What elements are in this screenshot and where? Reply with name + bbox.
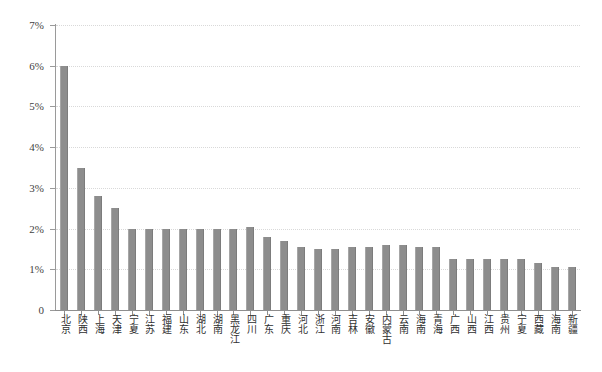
bar[interactable] xyxy=(179,229,187,310)
y-axis-tick-mark xyxy=(50,66,55,67)
x-axis-category-label: 重庆 xyxy=(279,314,289,334)
y-axis-tick-label: 2% xyxy=(0,223,44,235)
x-axis-category-label: 海南 xyxy=(414,314,424,334)
bar[interactable] xyxy=(399,245,407,310)
bar[interactable] xyxy=(348,247,356,310)
y-axis-tick-mark xyxy=(50,269,55,270)
y-axis-tick-label: 3% xyxy=(0,182,44,194)
bar[interactable] xyxy=(432,247,440,310)
bar[interactable] xyxy=(415,247,423,310)
gridline xyxy=(56,147,580,148)
bar[interactable] xyxy=(466,259,474,310)
x-axis-category-label: 黑龙江 xyxy=(228,314,238,344)
x-axis-category-label: 湖北 xyxy=(195,314,205,334)
bar[interactable] xyxy=(128,229,136,310)
bar[interactable] xyxy=(517,259,525,310)
x-axis-category-label: 内蒙古 xyxy=(381,314,391,344)
x-axis-category-label: 北京 xyxy=(59,314,69,334)
y-axis-tick-mark xyxy=(50,229,55,230)
bar[interactable] xyxy=(449,259,457,310)
x-axis-category-label: 海南 xyxy=(550,314,560,334)
bar[interactable] xyxy=(500,259,508,310)
x-axis-category-label: 江苏 xyxy=(144,314,154,334)
x-axis-category-label: 广东 xyxy=(262,314,272,334)
x-axis-category-label: 新疆 xyxy=(567,314,577,334)
x-axis-category-label: 山西 xyxy=(465,314,475,334)
x-axis-category-label: 西藏 xyxy=(533,314,543,334)
plot-area xyxy=(56,25,580,310)
x-axis-category-label: 湖南 xyxy=(212,314,222,334)
y-axis-tick-label: 0 xyxy=(0,304,44,316)
bar[interactable] xyxy=(551,267,559,310)
y-axis-tick-label: 1% xyxy=(0,263,44,275)
bar[interactable] xyxy=(331,249,339,310)
x-axis-category-label: 河南 xyxy=(330,314,340,334)
y-axis-tick-label: 4% xyxy=(0,141,44,153)
gridline xyxy=(56,188,580,189)
x-axis-category-label: 河北 xyxy=(296,314,306,334)
y-axis-tick-mark xyxy=(50,188,55,189)
y-axis-tick-mark xyxy=(50,106,55,107)
bar[interactable] xyxy=(229,229,237,310)
gridline xyxy=(56,25,580,26)
x-axis-category-label: 江西 xyxy=(482,314,492,334)
bar[interactable] xyxy=(534,263,542,310)
bar[interactable] xyxy=(145,229,153,310)
bar[interactable] xyxy=(246,227,254,310)
x-axis-category-label: 广西 xyxy=(448,314,458,334)
bar[interactable] xyxy=(213,229,221,310)
bar[interactable] xyxy=(94,196,102,310)
x-axis-category-label: 山东 xyxy=(178,314,188,334)
gridline xyxy=(56,66,580,67)
bar[interactable] xyxy=(483,259,491,310)
x-axis-category-label: 浙江 xyxy=(313,314,323,334)
x-axis-category-label: 宁夏 xyxy=(127,314,137,334)
x-axis-category-label: 上海 xyxy=(93,314,103,334)
bar[interactable] xyxy=(111,208,119,310)
bar-chart: 01%2%3%4%5%6%7% 北京陕西上海天津宁夏江苏福建山东湖北湖南黑龙江四… xyxy=(0,0,602,372)
x-axis-category-label: 吉林 xyxy=(347,314,357,334)
bar[interactable] xyxy=(162,229,170,310)
x-axis-category-label: 福建 xyxy=(161,314,171,334)
bar[interactable] xyxy=(365,247,373,310)
y-axis-tick-label: 6% xyxy=(0,60,44,72)
x-axis-category-label: 天津 xyxy=(110,314,120,334)
x-axis-category-label: 云南 xyxy=(398,314,408,334)
x-axis-category-label: 青海 xyxy=(431,314,441,334)
y-axis-tick-label: 5% xyxy=(0,100,44,112)
x-axis-category-label: 宁夏 xyxy=(516,314,526,334)
x-axis-category-label: 贵州 xyxy=(499,314,509,334)
bar[interactable] xyxy=(263,237,271,310)
bar[interactable] xyxy=(60,66,68,310)
bar[interactable] xyxy=(568,267,576,310)
y-axis-tick-label: 7% xyxy=(0,19,44,31)
y-axis-tick-mark xyxy=(50,147,55,148)
bar[interactable] xyxy=(77,168,85,311)
bar[interactable] xyxy=(297,247,305,310)
bar[interactable] xyxy=(280,241,288,310)
x-axis-category-label: 四川 xyxy=(245,314,255,334)
x-axis-category-label: 安徽 xyxy=(364,314,374,334)
bar[interactable] xyxy=(196,229,204,310)
bar[interactable] xyxy=(314,249,322,310)
bar[interactable] xyxy=(382,245,390,310)
y-axis-tick-mark xyxy=(50,25,55,26)
x-axis-category-label: 陕西 xyxy=(76,314,86,334)
gridline xyxy=(56,106,580,107)
